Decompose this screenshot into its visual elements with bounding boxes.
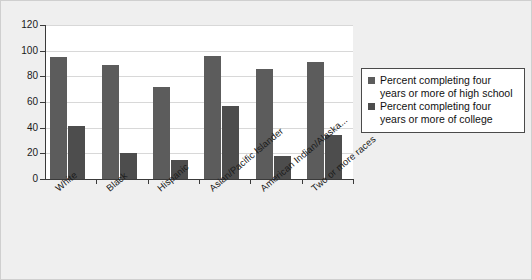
legend-item: Percent completing fouryears or more of …: [368, 100, 518, 125]
x-axis-tick-mark: [353, 180, 354, 184]
legend-label: Percent completing fouryears or more of …: [380, 74, 512, 99]
x-axis-label: Hispanic: [155, 161, 191, 193]
chart-page: 120100806040200 WhiteBlackHispanicAsian/…: [0, 0, 532, 280]
legend-label: Percent completing fouryears or more of …: [380, 100, 493, 125]
legend-label-line1: Percent completing four: [380, 74, 491, 86]
y-axis-tick-mark: [40, 153, 45, 154]
x-axis-tick-mark: [250, 180, 251, 184]
y-axis-tick-mark: [40, 51, 45, 52]
y-axis-tick-mark: [40, 128, 45, 129]
x-axis-category-labels: WhiteBlackHispanicAsian/Pacific Islander…: [1, 1, 532, 280]
x-axis-tick-mark: [199, 180, 200, 184]
legend-swatch-icon: [368, 77, 375, 84]
y-axis-tick-mark: [40, 25, 45, 26]
y-axis-tick-mark: [40, 179, 45, 180]
legend-label-line1: Percent completing four: [380, 100, 491, 112]
legend-label-line2: years or more of college: [380, 113, 493, 125]
y-axis-tick-mark: [40, 76, 45, 77]
x-axis-tick-mark: [302, 180, 303, 184]
x-axis-label: Black: [104, 170, 129, 194]
x-axis-label: American Indian/Alaska...: [258, 114, 350, 193]
x-axis-label: White: [53, 169, 79, 193]
x-axis-tick-mark: [96, 180, 97, 184]
legend-item: Percent completing fouryears or more of …: [368, 74, 518, 99]
legend-label-line2: years or more of high school: [380, 87, 512, 99]
y-axis-tick-mark: [40, 102, 45, 103]
legend-swatch-icon: [368, 103, 375, 110]
x-axis-tick-mark: [148, 180, 149, 184]
chart-legend: Percent completing fouryears or more of …: [361, 68, 525, 133]
